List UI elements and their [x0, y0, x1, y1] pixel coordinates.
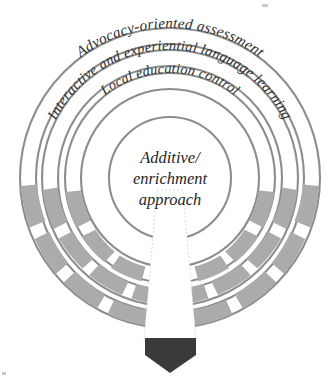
core-text-line1: Additive/ — [139, 148, 201, 167]
concentric-ring-diagram: Advocacy-oriented assessment — [0, 0, 335, 378]
core-text-group: Additive/ enrichment approach — [133, 148, 208, 209]
ring-label-inner: Local education control — [96, 60, 243, 99]
scan-speck — [2, 372, 6, 375]
ring-group: Advocacy-oriented assessment — [2, 4, 320, 375]
core-text-line3: approach — [139, 190, 202, 209]
diagram-root: Advocacy-oriented assessment — [0, 0, 335, 378]
downward-pointing-arrow-icon — [145, 338, 196, 373]
ring-label-inner-text: Local education control — [96, 60, 243, 99]
core-text-line2: enrichment — [133, 169, 208, 188]
scan-speck — [262, 4, 268, 7]
